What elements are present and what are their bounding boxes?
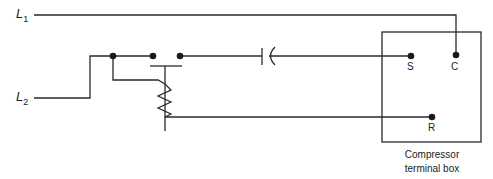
terminal-s-dot: [408, 53, 415, 60]
relay-contact-left-dot: [150, 53, 157, 60]
l1-subscript: 1: [23, 14, 28, 24]
caption-line-2: terminal box: [377, 162, 487, 176]
relay-contact-right-dot: [177, 53, 184, 60]
coil-feed-wire: [113, 56, 165, 84]
l2-wire: [34, 56, 153, 98]
l2-subscript: 2: [23, 97, 28, 107]
terminal-c-label: C: [451, 61, 458, 72]
l1-label: L1: [16, 6, 28, 24]
terminal-r-label: R: [428, 122, 435, 133]
terminal-box-caption: Compressor terminal box: [377, 148, 487, 176]
terminal-s-label: S: [407, 61, 414, 72]
l2-label: L2: [16, 89, 28, 107]
l1-wire: [34, 15, 456, 55]
terminal-r-dot: [429, 114, 436, 121]
terminal-c-dot: [453, 52, 460, 59]
junction-dot: [110, 53, 117, 60]
caption-line-1: Compressor: [377, 148, 487, 162]
